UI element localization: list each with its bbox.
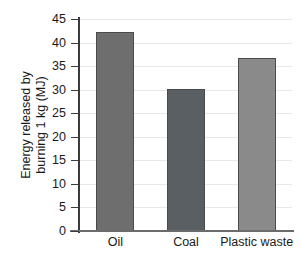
x-axis-line — [70, 230, 294, 232]
y-axis-tick-mark — [71, 207, 79, 208]
y-axis-tick-label: 30 — [42, 84, 66, 97]
plot-area — [80, 19, 292, 231]
y-axis-tick-mark — [71, 184, 79, 185]
y-axis-tick-label: 10 — [42, 178, 66, 191]
y-axis-title-line-1: Energy released by — [19, 71, 34, 179]
bar — [96, 32, 134, 231]
y-axis-tick-label: 25 — [42, 107, 66, 120]
x-axis-category-label: Plastic waste — [202, 236, 301, 249]
y-axis-tick-mark — [71, 137, 79, 138]
y-axis-tick-mark — [71, 231, 79, 232]
y-axis-tick-label: 15 — [42, 154, 66, 167]
bar-chart-figure: Energy released by burning 1 kg (MJ) 051… — [0, 0, 301, 265]
bar — [238, 58, 276, 231]
y-axis-tick-label: 20 — [42, 131, 66, 144]
y-axis-line — [78, 17, 80, 233]
y-axis-tick-labels: 051015202530354045 — [42, 0, 66, 265]
y-axis-tick-mark — [71, 19, 79, 20]
gridline — [80, 19, 292, 20]
y-axis-tick-label: 45 — [42, 13, 66, 26]
y-axis-tick-label: 5 — [42, 201, 66, 214]
y-axis-tick-mark — [71, 66, 79, 67]
y-axis-tick-mark — [71, 90, 79, 91]
y-axis-tick-mark — [71, 160, 79, 161]
y-axis-tick-mark — [71, 113, 79, 114]
y-axis-tick-label: 35 — [42, 60, 66, 73]
y-axis-tick-mark — [71, 43, 79, 44]
y-axis-tick-label: 40 — [42, 37, 66, 50]
bar — [167, 89, 205, 231]
